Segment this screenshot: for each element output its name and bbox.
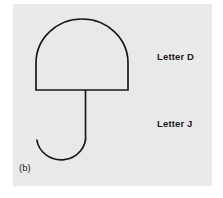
umbrella-handle-path	[37, 90, 86, 160]
annotation-label-letter-j: Letter J	[157, 118, 193, 129]
figure-container: Letter D Letter J (b)	[0, 0, 223, 198]
panel-caption: (b)	[19, 162, 31, 173]
annotation-label-letter-d: Letter D	[157, 51, 194, 62]
umbrella-canopy-path	[36, 19, 128, 90]
umbrella-diagram	[0, 0, 223, 198]
